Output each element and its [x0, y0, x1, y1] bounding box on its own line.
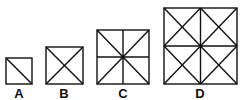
label-d: D: [195, 86, 204, 100]
square-figures-diagram: A B C D: [0, 0, 244, 100]
figure-a: [6, 58, 32, 84]
label-c: C: [118, 86, 128, 100]
label-b: B: [59, 86, 68, 100]
center-dot: [121, 55, 124, 58]
label-a: A: [14, 86, 24, 100]
figure-b: [46, 47, 83, 84]
figure-d: [164, 8, 237, 84]
